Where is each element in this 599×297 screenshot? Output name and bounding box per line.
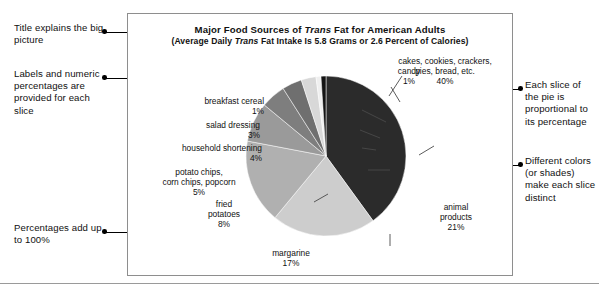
annotation-colors-distinct: Different colors (or shades) make each s… [525,155,597,204]
slice-label-margarine: margarine 17% [238,248,344,268]
annotation-title-explains: Title explains the big picture [14,22,110,46]
slice-label-cakes: cakes, cookies, crackers, pies, bread, e… [376,56,514,87]
figure-frame: Major Food Sources of Trans Fat for Amer… [127,13,513,276]
annotation-bullet-dot [518,162,523,167]
pie-slice-group [246,76,406,236]
leader-line-candy [391,87,400,102]
bottom-divider [0,283,599,284]
slice-label-household-shortening: household shortening 4% [134,143,262,163]
leader-line-animal-products [419,146,434,155]
slice-label-breakfast-cereal: breakfast cereal 1% [158,96,264,116]
slice-label-fried-potatoes: fried potatoes 8% [186,199,262,230]
annotation-labels-and-percentages: Labels and numeric percentages are provi… [14,68,106,117]
slice-label-animal-products: animal products 21% [420,202,492,233]
annotation-slice-proportional: Each slice of the pie is proportional to… [525,79,597,128]
annotation-percentages-add-up: Percentages add up to 100% [14,222,112,246]
annotation-bullet-dot [518,86,523,91]
slice-label-potato-chips: potato chips, corn chips, popcorn 5% [136,167,262,198]
slice-label-salad-dressing: salad dressing 3% [150,120,260,140]
